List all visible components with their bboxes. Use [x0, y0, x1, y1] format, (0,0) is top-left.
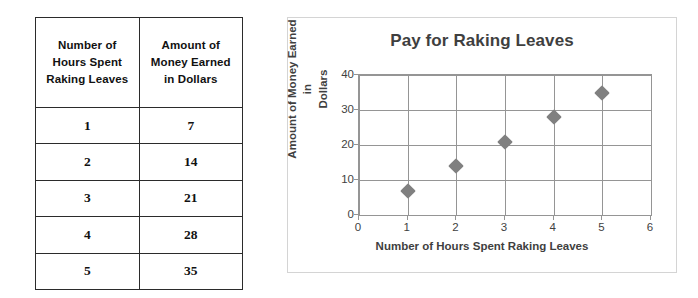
y-axis-tick-mark — [354, 109, 358, 110]
x-axis-tick-mark — [407, 216, 408, 220]
x-axis-tick-label: 3 — [489, 221, 519, 233]
data-point-marker — [595, 85, 611, 101]
table-body: 1 7 2 14 3 21 4 28 5 35 — [36, 108, 243, 290]
cell-money: 28 — [139, 217, 243, 253]
y-axis-tick-label: 0 — [330, 208, 354, 220]
plot-area — [358, 74, 652, 216]
data-point-marker — [497, 134, 513, 150]
table-header: Number of Hours Spent Raking Leaves Amou… — [36, 18, 243, 108]
column-header-money-line2: Money Earned — [144, 54, 239, 71]
y-axis-tick-label: 20 — [330, 138, 354, 150]
table-row: 4 28 — [36, 217, 243, 253]
x-axis-tick-label: 2 — [440, 221, 470, 233]
table-row: 2 14 — [36, 144, 243, 180]
cell-money: 14 — [139, 144, 243, 180]
y-axis-title-line1: Amount of Money Earned in — [285, 18, 316, 160]
x-axis-tick-label: 1 — [392, 221, 422, 233]
column-header-hours-line3: Raking Leaves — [40, 71, 135, 88]
x-axis-tick-label: 0 — [343, 221, 373, 233]
gridline-vertical — [651, 75, 652, 215]
table-row: 3 21 — [36, 180, 243, 216]
gridline-vertical — [359, 75, 360, 215]
table-row: 1 7 — [36, 108, 243, 144]
x-axis-tick-mark — [504, 216, 505, 220]
x-axis-tick-mark — [455, 216, 456, 220]
table-row: 5 35 — [36, 253, 243, 289]
x-axis-tick-mark — [601, 216, 602, 220]
x-axis-tick-labels: 0123456 — [358, 221, 652, 237]
y-axis-tick-label: 40 — [330, 68, 354, 80]
cell-hours: 2 — [36, 144, 140, 180]
y-axis-tick-labels: 010203040 — [326, 74, 354, 216]
cell-hours: 1 — [36, 108, 140, 144]
gridline-horizontal — [359, 215, 651, 216]
y-axis-tick-mark — [354, 179, 358, 180]
gridline-vertical — [554, 75, 555, 215]
cell-money: 35 — [139, 253, 243, 289]
column-header-hours: Number of Hours Spent Raking Leaves — [36, 18, 140, 108]
x-axis-tick-mark — [553, 216, 554, 220]
data-point-marker — [449, 158, 465, 174]
cell-hours: 4 — [36, 217, 140, 253]
data-point-marker — [400, 183, 416, 199]
x-axis-title: Number of Hours Spent Raking Leaves — [288, 240, 676, 252]
x-axis-tick-label: 6 — [635, 221, 665, 233]
cell-money: 21 — [139, 180, 243, 216]
cell-hours: 3 — [36, 180, 140, 216]
column-header-money-line1: Amount of — [144, 37, 239, 54]
chart-title: Pay for Raking Leaves — [288, 31, 676, 51]
data-table-container: Number of Hours Spent Raking Leaves Amou… — [35, 17, 243, 273]
data-point-marker — [546, 109, 562, 125]
x-axis-tick-label: 4 — [538, 221, 568, 233]
x-axis-tick-mark — [358, 216, 359, 220]
y-axis-tick-mark — [354, 74, 358, 75]
y-axis-tick-label: 10 — [330, 173, 354, 185]
chart-panel: Pay for Raking Leaves Amount of Money Ea… — [287, 17, 677, 273]
column-header-money-line3: in Dollars — [144, 71, 239, 88]
x-axis-tick-label: 5 — [586, 221, 616, 233]
x-axis-tick-mark — [650, 216, 651, 220]
y-axis-tick-mark — [354, 214, 358, 215]
gridline-vertical — [456, 75, 457, 215]
hours-pay-table: Number of Hours Spent Raking Leaves Amou… — [35, 17, 243, 290]
cell-money: 7 — [139, 108, 243, 144]
table-header-row: Number of Hours Spent Raking Leaves Amou… — [36, 18, 243, 108]
column-header-money: Amount of Money Earned in Dollars — [139, 18, 243, 108]
y-axis-title: Amount of Money Earned in Dollars — [293, 18, 323, 160]
column-header-hours-line1: Number of — [40, 37, 135, 54]
cell-hours: 5 — [36, 253, 140, 289]
column-header-hours-line2: Hours Spent — [40, 54, 135, 71]
y-axis-tick-label: 30 — [330, 103, 354, 115]
y-axis-tick-mark — [354, 144, 358, 145]
